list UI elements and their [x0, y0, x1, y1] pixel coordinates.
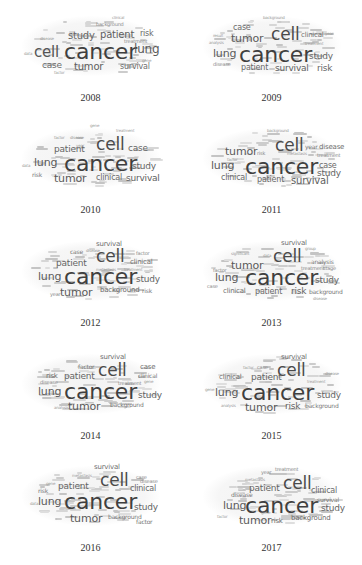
word-cancer: cancer	[64, 491, 137, 513]
word-data: data	[24, 52, 32, 56]
word-case: case	[233, 24, 251, 32]
word-risk: risk	[38, 488, 48, 494]
minor-term	[294, 132, 304, 134]
word-survival: survival	[94, 464, 120, 471]
word-survival: survival	[291, 176, 329, 186]
minor-term	[118, 71, 129, 73]
minor-term	[127, 294, 138, 296]
word-survival: survival	[120, 63, 150, 71]
word-tumor: tumor	[68, 401, 100, 412]
word-cloud-panel-2013: cancercelltumorlungsurvivalanalysisstage…	[181, 225, 362, 338]
word-factor: factor	[217, 515, 228, 519]
minor-term	[281, 185, 286, 187]
minor-term	[246, 293, 251, 295]
word-disease: disease	[140, 479, 158, 484]
minor-term	[41, 260, 49, 262]
word-cloud: cancercelllungsurvivalcasediseasepatient…	[20, 235, 162, 305]
word-cloud-panel-2015: cancercellsurvivalclinicalpatientcasefac…	[181, 338, 362, 451]
minor-term	[298, 27, 309, 29]
word-data: data	[30, 502, 38, 506]
minor-term	[314, 477, 321, 479]
word-cloud-panel-2012: cancercelllungsurvivalcasediseasepatient…	[0, 225, 181, 338]
minor-term	[144, 270, 152, 272]
word-clinical: clinical	[130, 485, 156, 493]
word-tumor: tumor	[239, 515, 271, 526]
word-cell: cell	[96, 136, 124, 153]
word-patient: patient	[64, 372, 95, 381]
word-factor: factor	[227, 158, 238, 162]
word-clinical: clinical	[221, 174, 247, 182]
word-background: background	[110, 402, 144, 408]
word-treatment: treatment	[305, 42, 323, 46]
word-lung: lung	[223, 500, 246, 511]
word-risk: risk	[271, 518, 283, 525]
minor-term	[125, 253, 134, 255]
year-caption: 2016	[0, 542, 181, 553]
word-survival: survival	[281, 354, 307, 361]
word-cell: cell	[96, 248, 124, 265]
word-risk: risk	[257, 151, 265, 156]
word-disease: disease	[231, 492, 252, 498]
word-treatment: treatment	[307, 380, 325, 384]
word-treatment: treatment	[301, 266, 324, 271]
word-cloud-panel-2009: cancercelltumorlungcaseclinicalstudyrisk…	[181, 0, 362, 113]
minor-term	[302, 23, 310, 25]
minor-term	[258, 144, 267, 146]
word-background: background	[309, 289, 343, 295]
word-treatment: treatment	[116, 129, 134, 133]
minor-term	[240, 142, 252, 144]
word-survival: survival	[275, 64, 309, 73]
minor-term	[56, 477, 63, 479]
word-study: study	[68, 31, 95, 41]
word-cloud-panel-2014: cancercellpatientlungsurvivalfactorcasec…	[0, 338, 181, 451]
word-patient: patient	[249, 484, 280, 493]
word-study: study	[136, 275, 160, 284]
word-risk: risk	[317, 64, 332, 73]
word-study: study	[138, 391, 162, 400]
minor-term	[150, 158, 161, 160]
word-stage: stage	[323, 266, 336, 271]
word-gene: gene	[205, 388, 214, 392]
word-factor: factor	[136, 251, 149, 256]
minor-term	[54, 474, 60, 476]
word-year: year	[50, 292, 60, 297]
minor-term	[54, 255, 59, 257]
word-clinical: clinical	[112, 16, 124, 20]
word-cloud-panel-2010: cancercelllungpatientcasestudytumorclini…	[0, 112, 181, 225]
word-cell: cell	[100, 472, 128, 489]
word-background: background	[291, 515, 330, 522]
word-gene: gene	[142, 59, 151, 63]
year-caption: 2015	[181, 430, 362, 441]
word-background: background	[96, 22, 124, 27]
year-caption: 2013	[181, 317, 362, 328]
word-treatment: treatment	[124, 39, 147, 44]
word-tumor: tumor	[245, 402, 277, 413]
year-caption: 2012	[0, 317, 181, 328]
word-patient: patient	[251, 373, 282, 382]
word-background: background	[305, 403, 339, 409]
minor-term	[42, 285, 51, 287]
word-factor: factor	[213, 268, 226, 273]
word-clinical: clinical	[311, 487, 337, 495]
word-background: background	[267, 129, 289, 133]
word-cloud: cancercelltumorlungcaseclinicalstudyrisk…	[201, 10, 343, 80]
word-analysis: analysis	[209, 41, 224, 45]
minor-term	[238, 488, 243, 490]
word-study: study	[134, 503, 158, 512]
minor-term	[38, 371, 42, 373]
word-clinical: clinical	[301, 32, 324, 39]
word-patient: patient	[257, 176, 284, 184]
word-disease: disease	[325, 372, 339, 376]
word-cloud: cancercellsurvivalclinicalpatientcasefac…	[201, 348, 343, 418]
word-tumor: tumor	[60, 287, 92, 298]
word-risk: risk	[140, 30, 154, 38]
minor-term	[92, 476, 97, 478]
word-lung: lung	[34, 157, 57, 168]
word-cell: cell	[98, 362, 126, 379]
word-survival: survival	[126, 174, 160, 183]
word-case: case	[42, 61, 62, 70]
word-clinical: clinical	[219, 374, 242, 381]
word-study: study	[309, 52, 333, 61]
word-tumor: tumor	[74, 62, 103, 72]
word-analysis: analysis	[54, 406, 69, 410]
